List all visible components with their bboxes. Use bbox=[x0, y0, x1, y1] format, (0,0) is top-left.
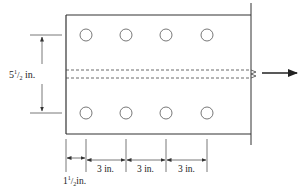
pitch-label-3: 3 in. bbox=[178, 164, 195, 174]
bolt-hole bbox=[160, 29, 172, 41]
bolted-plate-diagram: 51/2 in. 3 in. 3 in. 3 in. 11/2in. bbox=[0, 0, 305, 191]
bolt-hole bbox=[80, 29, 92, 41]
bolt-hole bbox=[80, 107, 92, 119]
dimension-label-height: 51/2 in. bbox=[9, 69, 35, 81]
bolt-hole bbox=[201, 29, 213, 41]
bolt-hole bbox=[201, 107, 213, 119]
plate bbox=[66, 3, 251, 145]
edge-distance-label: 11/2in. bbox=[63, 175, 86, 187]
break-symbol-icon bbox=[251, 70, 256, 78]
vertical-dimension: 51/2 in. bbox=[9, 35, 62, 113]
hidden-centerline bbox=[66, 70, 256, 78]
pitch-label-2: 3 in. bbox=[137, 164, 154, 174]
bolt-hole bbox=[120, 107, 132, 119]
bolt-holes bbox=[80, 29, 213, 119]
pitch-label-1: 3 in. bbox=[97, 164, 114, 174]
bolt-hole bbox=[160, 107, 172, 119]
horizontal-dimensions: 3 in. 3 in. 3 in. 11/2in. bbox=[63, 139, 207, 187]
bolt-hole bbox=[120, 29, 132, 41]
